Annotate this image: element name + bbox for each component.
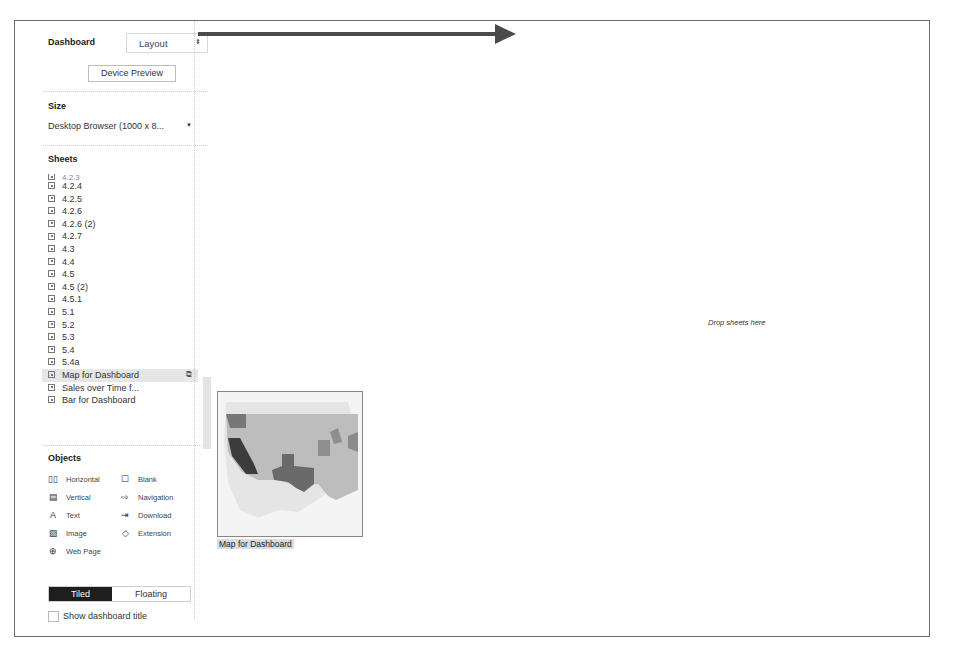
object-text[interactable]: AText	[48, 510, 80, 520]
sheet-item[interactable]: 4.2.4	[48, 180, 208, 193]
sidebar-divider	[194, 21, 195, 619]
worksheet-icon	[48, 258, 55, 265]
globe-icon: ⊕	[48, 546, 58, 556]
worksheet-icon	[48, 295, 55, 302]
tab-layout[interactable]: Layout ⬍	[126, 33, 208, 53]
object-vertical[interactable]: ▤Vertical	[48, 492, 91, 502]
device-preview-button[interactable]: Device Preview	[88, 65, 176, 82]
object-extension[interactable]: ◇Extension	[120, 528, 171, 538]
tiled-floating-toggle: Tiled Floating	[48, 586, 191, 602]
sheet-item[interactable]: 5.1	[48, 306, 208, 319]
sheet-item-selected[interactable]: Map for Dashboard⧉	[42, 369, 198, 382]
worksheet-icon	[48, 321, 55, 328]
sidebar-tabs: Dashboard Layout ⬍	[43, 33, 208, 53]
floating-button[interactable]: Floating	[112, 587, 190, 601]
sheet-item[interactable]: Bar for Dashboard	[48, 394, 208, 407]
sheet-item[interactable]: 5.4	[48, 344, 208, 357]
sheets-list[interactable]: 4.2.3 4.2.4 4.2.5 4.2.6 4.2.6 (2) 4.2.7 …	[48, 174, 208, 407]
extension-icon: ◇	[120, 528, 130, 538]
worksheet-icon	[48, 283, 55, 290]
worksheet-icon	[48, 233, 55, 240]
chevron-down-icon: ▼	[186, 122, 192, 128]
sheet-item[interactable]: Sales over Time f...	[48, 382, 208, 395]
object-download[interactable]: ⇥Download	[120, 510, 171, 520]
tab-dashboard[interactable]: Dashboard	[48, 37, 95, 47]
divider	[43, 145, 208, 146]
divider	[43, 445, 208, 446]
worksheet-icon	[48, 346, 55, 353]
object-horizontal[interactable]: ▯▯Horizontal	[48, 474, 100, 484]
worksheet-icon	[48, 308, 55, 315]
dashboard-canvas[interactable]: Drop sheets here Map for Dashboard	[198, 21, 929, 635]
worksheet-icon	[48, 207, 55, 214]
dashboard-sidebar: Dashboard Layout ⬍ Device Preview Size D…	[29, 21, 199, 621]
sheet-item[interactable]: 4.2.6 (2)	[48, 218, 208, 231]
size-section-title: Size	[48, 101, 66, 111]
worksheet-icon	[48, 195, 55, 202]
worksheet-icon	[48, 384, 55, 391]
tab-layout-label: Layout	[139, 38, 168, 49]
drag-arrow-icon	[198, 21, 618, 141]
image-icon: ▨	[48, 528, 58, 538]
divider	[43, 91, 208, 92]
vertical-container-icon: ▤	[48, 492, 58, 502]
sheet-item[interactable]: 5.4a	[48, 356, 208, 369]
object-blank[interactable]: ☐Blank	[120, 474, 157, 484]
sheet-item[interactable]: 4.4	[48, 256, 208, 269]
worksheet-icon	[48, 245, 55, 252]
sheet-item[interactable]: 4.5 (2)	[48, 281, 208, 294]
worksheet-icon	[48, 270, 55, 277]
worksheet-icon	[48, 220, 55, 227]
sheet-item[interactable]: 5.2	[48, 319, 208, 332]
object-navigation[interactable]: ⇨Navigation	[120, 492, 173, 502]
object-web-page[interactable]: ⊕Web Page	[48, 546, 101, 556]
worksheet-icon	[48, 358, 55, 365]
drop-sheets-hint: Drop sheets here	[708, 318, 766, 327]
sheet-item[interactable]: 4.2.5	[48, 193, 208, 206]
download-icon: ⇥	[120, 510, 130, 520]
sheet-item[interactable]: 4.2.7	[48, 230, 208, 243]
object-image[interactable]: ▨Image	[48, 528, 87, 538]
sheet-item[interactable]: 4.5.1	[48, 293, 208, 306]
size-value: Desktop Browser (1000 x 8...	[48, 121, 164, 131]
worksheet-icon	[48, 371, 55, 378]
sheet-item[interactable]: 4.3	[48, 243, 208, 256]
dragged-sheet-label: Map for Dashboard	[217, 539, 294, 549]
horizontal-container-icon: ▯▯	[48, 474, 58, 484]
sheet-item[interactable]: 4.5	[48, 268, 208, 281]
worksheet-icon	[48, 182, 55, 189]
blank-icon: ☐	[120, 474, 130, 484]
show-title-checkbox[interactable]	[48, 611, 59, 622]
sheet-item[interactable]: 4.2.6	[48, 205, 208, 218]
size-dropdown[interactable]: Desktop Browser (1000 x 8... ▼	[48, 121, 198, 131]
sheets-section-title: Sheets	[48, 154, 78, 164]
tableau-window: Dashboard Layout ⬍ Device Preview Size D…	[14, 20, 930, 637]
text-icon: A	[48, 510, 58, 520]
dragged-map-thumbnail[interactable]	[217, 391, 363, 537]
worksheet-icon	[48, 396, 55, 403]
show-title-label: Show dashboard title	[63, 611, 147, 621]
objects-section-title: Objects	[48, 453, 81, 463]
tiled-button[interactable]: Tiled	[49, 587, 112, 601]
show-title-row[interactable]: Show dashboard title	[48, 611, 147, 622]
navigation-icon: ⇨	[120, 492, 130, 502]
sheet-item[interactable]: 5.3	[48, 331, 208, 344]
open-sheet-icon[interactable]: ⧉	[186, 369, 192, 382]
us-map-icon	[218, 392, 362, 536]
worksheet-icon	[48, 333, 55, 340]
